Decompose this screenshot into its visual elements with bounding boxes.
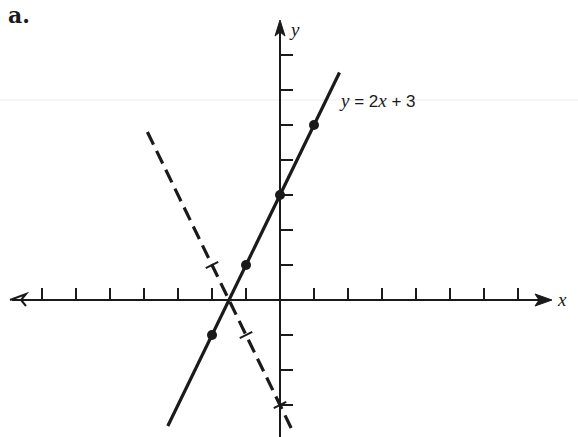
data-markers: [206, 120, 319, 408]
point-marker: [309, 120, 319, 130]
eq-y: y: [339, 90, 350, 111]
y-axis-label: y: [289, 19, 300, 40]
coordinate-plane: x y y = 2x + 3: [0, 0, 578, 437]
point-marker: [207, 330, 217, 340]
eq-rest: + 3: [387, 92, 416, 111]
equation-label: y = 2x + 3: [339, 90, 416, 111]
point-marker: [275, 190, 285, 200]
x-axis-label: x: [557, 289, 567, 310]
point-marker: [241, 260, 251, 270]
axes: [10, 20, 552, 437]
eq-eq: = 2: [349, 92, 378, 111]
dashed-line: [147, 132, 293, 433]
